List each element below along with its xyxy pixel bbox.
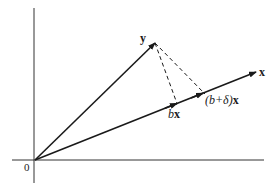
dashed-line-to-b-plus-delta-x — [155, 43, 205, 94]
y-vector-label: y — [140, 31, 146, 45]
b-plus-delta-x-label: (b+δ)x — [205, 93, 239, 107]
bx-label: bx — [168, 107, 180, 121]
x-vector — [35, 72, 256, 160]
x-vector-label: x — [259, 65, 265, 79]
bx-vector-symbol: x — [174, 107, 180, 121]
b-plus-delta-vector-symbol: x — [233, 93, 239, 107]
b-plus-delta-coefficient: (b+δ) — [205, 93, 233, 107]
y-vector — [35, 43, 155, 160]
b-plus-delta-x-arrow — [191, 93, 203, 98]
vector-projection-diagram: 0 y x bx (b+δ)x — [0, 0, 274, 184]
dashed-line-to-bx — [155, 43, 177, 104]
origin-label: 0 — [24, 161, 30, 173]
